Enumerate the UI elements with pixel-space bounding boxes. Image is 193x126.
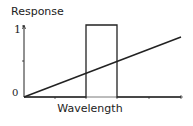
y-tick-label-0: 0	[12, 87, 18, 98]
x-axis-label: Wavelength	[57, 102, 122, 115]
series-rectangular-response	[24, 25, 181, 97]
y-axis-label: Response	[11, 5, 64, 18]
series-linear-response	[24, 37, 181, 97]
y-tick-label-1: 1	[14, 23, 21, 36]
response-chart: Response 1 0 Wavelength	[0, 0, 193, 126]
